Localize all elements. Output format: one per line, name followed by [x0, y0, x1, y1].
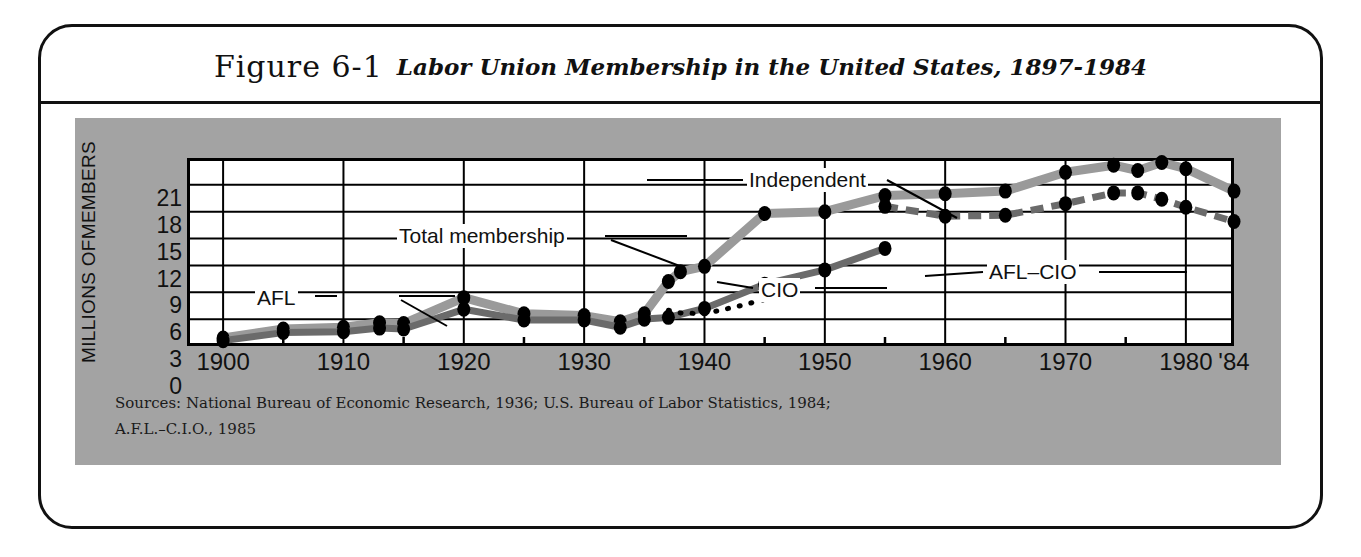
x-tick-1970: 1970 — [1039, 348, 1092, 376]
gridlines — [187, 158, 1234, 346]
sources-line-1: Sources: National Bureau of Economic Res… — [115, 390, 1215, 416]
x-tick-1950: 1950 — [798, 348, 851, 376]
x-tick-1960: 1960 — [918, 348, 971, 376]
y-axis-title-line1: MILLIONS OF — [79, 239, 99, 363]
x-tick-1910: 1910 — [317, 348, 370, 376]
y-axis-title-line2: MEMBERS — [79, 141, 99, 239]
y-axis-title: MILLIONS OF MEMBERS — [69, 158, 109, 346]
plot-area — [187, 158, 1234, 346]
x-tick-1900: 1900 — [196, 348, 249, 376]
sources-line-2: A.F.L.–C.I.O., 1985 — [115, 416, 1215, 442]
x-tick-84: '84 — [1218, 348, 1249, 376]
y-tick-6: 6 — [169, 321, 182, 344]
y-tick-12: 12 — [156, 267, 182, 290]
annotation-total-membership: Total membership — [397, 224, 567, 248]
x-axis-tick-labels: 190019101920193019401950196019701980'84 — [187, 348, 1234, 380]
x-tick-1930: 1930 — [557, 348, 610, 376]
x-tick-1980: 1980 — [1159, 348, 1212, 376]
y-axis-tick-labels: 036912151821 — [130, 158, 182, 346]
figure-number: Figure 6-1 — [214, 49, 383, 84]
y-tick-9: 9 — [169, 294, 182, 317]
y-tick-3: 3 — [169, 348, 182, 371]
annotation-afl-cio: AFL–CIO — [987, 260, 1079, 284]
y-tick-15: 15 — [156, 240, 182, 263]
figure-page: Figure 6-1 Labor Union Membership in the… — [0, 0, 1361, 557]
chart-canvas — [187, 158, 1234, 346]
chart-plate: MILLIONS OF MEMBERS 036912151821 1900191… — [75, 118, 1281, 465]
sources-note: Sources: National Bureau of Economic Res… — [115, 390, 1215, 443]
annotation-cio: CIO — [759, 278, 800, 302]
y-tick-18: 18 — [156, 213, 182, 236]
y-tick-21: 21 — [156, 187, 182, 210]
annotation-independent: Independent — [747, 168, 868, 192]
figure-title-bar: Figure 6-1 Labor Union Membership in the… — [38, 36, 1323, 96]
figure-title: Labor Union Membership in the United Sta… — [397, 53, 1147, 80]
x-tick-1920: 1920 — [437, 348, 490, 376]
title-divider — [41, 101, 1320, 104]
x-tick-1940: 1940 — [678, 348, 731, 376]
annotation-afl: AFL — [255, 286, 298, 310]
